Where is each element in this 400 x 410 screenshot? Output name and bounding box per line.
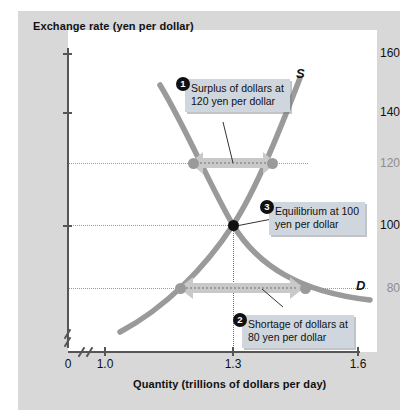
- annotation-2-line-1: Shortage of dollars at: [248, 318, 348, 331]
- annotation-callout-equilibrium: Equilibrium at 100 yen per dollar: [269, 202, 365, 235]
- surplus-right-point: [267, 158, 278, 169]
- annotation-3-line-1: Equilibrium at 100: [275, 205, 359, 218]
- annotation-badge-1: 1: [176, 77, 190, 91]
- annotation-badge-3: 3: [260, 200, 274, 214]
- annotation-2-line-2: 80 yen per dollar: [248, 331, 348, 344]
- figure-root: Exchange rate (yen per dollar) Quantity …: [0, 0, 400, 410]
- annotation-callout-shortage: Shortage of dollars at 80 yen per dollar: [242, 315, 354, 348]
- annotation-1-line-1: Surplus of dollars at: [191, 82, 284, 95]
- annotation-badge-2: 2: [233, 313, 247, 327]
- leader-line-surplus: [223, 122, 233, 163]
- demand-curve: [160, 85, 370, 300]
- shortage-left-point: [175, 283, 186, 294]
- demand-curve-label: D: [356, 278, 365, 293]
- annotation-callout-surplus: Surplus of dollars at 120 yen per dollar: [185, 79, 290, 112]
- annotation-3-line-2: yen per dollar: [275, 218, 359, 231]
- supply-curve-label: S: [296, 66, 305, 81]
- shortage-arrow: [179, 277, 304, 299]
- equilibrium-point: [228, 220, 239, 231]
- shortage-right-point: [300, 283, 311, 294]
- annotation-1-line-2: 120 yen per dollar: [191, 95, 284, 108]
- surplus-left-point: [188, 158, 199, 169]
